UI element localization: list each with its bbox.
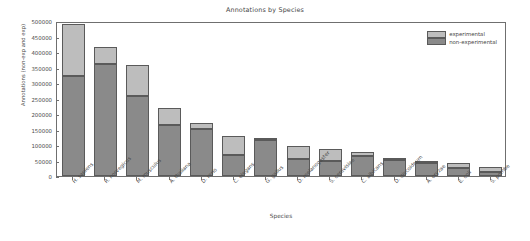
bar-h-sapiens: [62, 24, 85, 176]
bar-d-rerio: [190, 123, 213, 176]
y-tick-mark: [56, 38, 59, 39]
bar-segment-non-experimental: [126, 96, 149, 176]
bar-segment-experimental: [62, 24, 85, 76]
plot-frame: experimental non-experimental: [56, 22, 506, 177]
bar-segment-experimental: [351, 152, 374, 156]
legend-item-non-experimental: non-experimental: [427, 38, 497, 45]
annotations-by-species-chart: Annotations by Species Annotations (non-…: [0, 0, 530, 241]
y-tick-label: 0: [0, 174, 52, 180]
y-tick-label: 100000: [0, 143, 52, 149]
x-axis-label: Species: [56, 213, 506, 219]
bar-segment-experimental: [222, 136, 245, 155]
y-tick-mark: [56, 146, 59, 147]
bar-segment-experimental: [94, 47, 117, 64]
legend-label-experimental: experimental: [449, 31, 485, 37]
legend-swatch-experimental: [427, 31, 446, 38]
y-tick-label: 400000: [0, 50, 52, 56]
y-tick-mark: [56, 84, 59, 85]
bar-a-thaliana: [158, 108, 181, 177]
bar-segment-experimental: [190, 123, 213, 129]
y-tick-mark: [56, 115, 59, 116]
bar-segment-experimental: [126, 65, 149, 95]
legend-item-experimental: experimental: [427, 31, 497, 38]
bar-segment-non-experimental: [158, 125, 181, 176]
bar-segment-experimental: [383, 158, 406, 160]
y-tick-mark: [56, 53, 59, 54]
y-tick-label: 500000: [0, 19, 52, 25]
bar-segment-experimental: [158, 108, 181, 126]
legend-label-non-experimental: non-experimental: [449, 39, 497, 45]
bar-segment-experimental: [254, 138, 277, 140]
legend-swatch-non-experimental: [427, 38, 446, 45]
y-tick-label: 50000: [0, 159, 52, 165]
y-tick-mark: [56, 100, 59, 101]
bar-segment-experimental: [287, 146, 310, 160]
chart-legend: experimental non-experimental: [424, 28, 500, 48]
bar-r-norvegicus: [94, 47, 117, 176]
y-tick-label: 350000: [0, 66, 52, 72]
y-tick-mark: [56, 131, 59, 132]
y-tick-label: 300000: [0, 81, 52, 87]
y-tick-label: 250000: [0, 97, 52, 103]
y-tick-mark: [56, 69, 59, 70]
page-title: Annotations by Species: [0, 6, 530, 14]
y-tick-mark: [56, 22, 59, 23]
bar-segment-experimental: [447, 163, 470, 168]
y-tick-mark: [56, 177, 59, 178]
bar-segment-non-experimental: [62, 76, 85, 176]
y-tick-label: 200000: [0, 112, 52, 118]
bar-segment-non-experimental: [94, 64, 117, 176]
y-tick-label: 150000: [0, 128, 52, 134]
y-tick-mark: [56, 162, 59, 163]
y-tick-label: 450000: [0, 35, 52, 41]
